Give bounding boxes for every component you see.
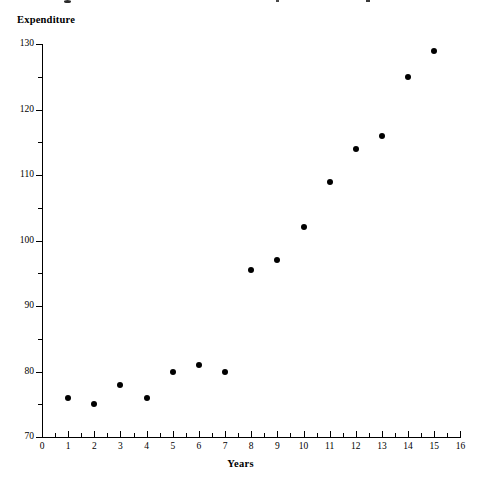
y-tick-label: 80 [10,367,34,377]
x-tick-label: 5 [163,441,183,451]
x-tick-label: 8 [241,441,261,451]
data-point [170,369,176,375]
x-tick-major [68,431,69,437]
y-tick-label: 120 [10,105,34,115]
x-tick-minor [81,433,82,437]
x-tick-major [199,431,200,437]
y-tick-major [36,306,42,307]
x-tick-major [42,431,43,437]
x-tick-label: 4 [137,441,157,451]
data-point [222,369,228,375]
y-tick-label: 130 [10,39,34,49]
data-point [431,48,437,54]
x-tick-major [382,431,383,437]
data-point [353,146,359,152]
x-tick-label: 7 [215,441,235,451]
x-tick-minor [343,433,344,437]
x-tick-minor [160,433,161,437]
x-tick-major [277,431,278,437]
x-tick-minor [107,433,108,437]
x-axis-line [42,437,461,438]
x-tick-label: 0 [32,441,52,451]
x-tick-minor [317,433,318,437]
x-tick-label: 3 [110,441,130,451]
y-tick-label: 100 [10,236,34,246]
x-tick-major [434,431,435,437]
x-tick-label: 14 [398,441,418,451]
x-tick-major [147,431,148,437]
x-tick-major [173,431,174,437]
x-tick-label: 13 [372,441,392,451]
y-tick-minor [38,77,42,78]
y-tick-major [36,175,42,176]
data-point [117,382,123,388]
x-tick-minor [238,433,239,437]
x-tick-label: 9 [267,441,287,451]
x-tick-major [225,431,226,437]
x-tick-minor [212,433,213,437]
y-tick-major [36,437,42,438]
x-axis-title: Years [0,458,481,469]
y-tick-minor [38,142,42,143]
x-tick-major [356,431,357,437]
scatter-chart: Expenditure 708090100110120130 012345678… [0,0,481,498]
x-tick-major [120,431,121,437]
x-tick-minor [264,433,265,437]
x-tick-label: 6 [189,441,209,451]
y-tick-major [36,44,42,45]
y-tick-major [36,372,42,373]
x-tick-label: 11 [320,441,340,451]
y-tick-major [36,241,42,242]
y-tick-minor [38,273,42,274]
x-tick-minor [290,433,291,437]
x-tick-label: 2 [84,441,104,451]
x-tick-label: 16 [450,441,470,451]
x-tick-minor [447,433,448,437]
y-tick-label: 110 [10,170,34,180]
data-point [405,74,411,80]
y-tick-minor [38,404,42,405]
y-tick-label: 90 [10,301,34,311]
data-point [196,362,202,368]
data-point [65,395,71,401]
x-tick-label: 1 [58,441,78,451]
data-point [274,257,280,263]
y-tick-label: 70 [10,432,34,442]
x-tick-minor [369,433,370,437]
y-tick-minor [38,339,42,340]
x-tick-major [330,431,331,437]
data-point [327,179,333,185]
data-point [301,224,307,230]
x-tick-major [251,431,252,437]
x-tick-major [94,431,95,437]
data-point [248,267,254,273]
data-point [91,401,97,407]
x-tick-major [304,431,305,437]
x-tick-label: 12 [346,441,366,451]
x-tick-major [460,431,461,437]
y-tick-major [36,110,42,111]
data-point [144,395,150,401]
x-tick-label: 10 [294,441,314,451]
x-tick-minor [134,433,135,437]
x-tick-label: 15 [424,441,444,451]
x-tick-major [408,431,409,437]
x-tick-minor [421,433,422,437]
x-tick-minor [186,433,187,437]
y-axis-line [42,44,43,438]
x-tick-minor [395,433,396,437]
plot-area: 708090100110120130 012345678910111213141… [0,0,481,498]
y-tick-minor [38,208,42,209]
x-tick-minor [55,433,56,437]
data-point [379,133,385,139]
